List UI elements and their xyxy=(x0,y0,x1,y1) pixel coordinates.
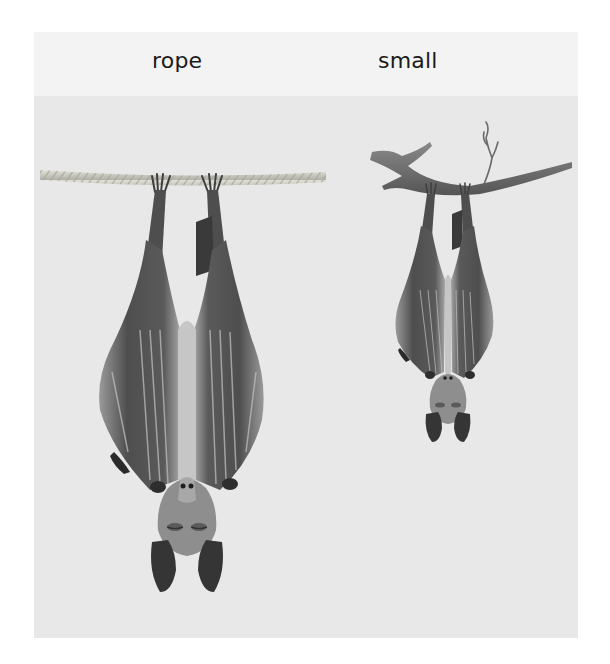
small-bat-icon xyxy=(395,183,493,442)
illustration xyxy=(0,0,610,664)
rope-icon xyxy=(40,170,326,186)
branch-icon xyxy=(370,122,572,195)
large-bat-icon xyxy=(99,174,264,592)
